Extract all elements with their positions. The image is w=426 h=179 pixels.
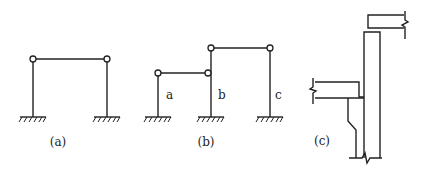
hinge-icon bbox=[155, 70, 161, 76]
fixed-support-icon bbox=[144, 117, 171, 122]
column-label-a: a bbox=[166, 88, 173, 102]
lower-beam bbox=[315, 82, 364, 97]
column-label-c: c bbox=[275, 88, 282, 102]
column-label-b: b bbox=[218, 88, 226, 102]
hinge-icon bbox=[208, 45, 214, 51]
hinge-icon bbox=[205, 70, 211, 76]
hinge-icon bbox=[104, 56, 110, 62]
hinge-icon bbox=[267, 45, 273, 51]
break-line-icon bbox=[349, 153, 382, 163]
fixed-support-icon bbox=[197, 117, 224, 122]
figure-a: (a) bbox=[19, 56, 120, 149]
hinge-icon bbox=[30, 56, 36, 62]
upper-beam bbox=[368, 15, 404, 28]
figure-b: a b c (b) bbox=[144, 45, 283, 149]
figure-caption-b: (b) bbox=[197, 135, 214, 149]
main-column bbox=[364, 32, 380, 158]
figure-caption-a: (a) bbox=[50, 135, 67, 149]
fixed-support-icon bbox=[19, 117, 46, 122]
fixed-support-icon bbox=[256, 117, 283, 122]
lower-column bbox=[348, 98, 356, 158]
figure-caption-c: (c) bbox=[314, 134, 330, 148]
diagram-canvas: (a) a b c (b) (c) bbox=[0, 0, 426, 179]
fixed-support-icon bbox=[93, 117, 120, 122]
